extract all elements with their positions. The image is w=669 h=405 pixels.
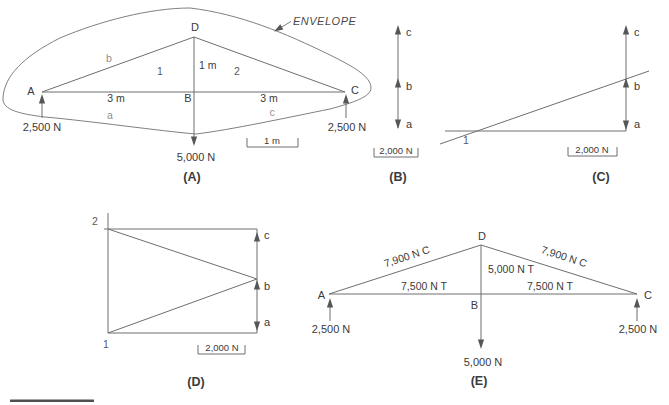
center-load-label: 5,000 N	[464, 356, 503, 368]
joint-label-C: C	[351, 84, 359, 96]
point-label-a: a	[264, 316, 271, 328]
panel-e-diagram: A D C B 7,900 N C 7,900 N C 5,000 N T 7,…	[312, 230, 658, 388]
point-label-c: c	[406, 26, 412, 38]
arrowhead-down-a	[395, 120, 401, 130]
panel-caption-a: (A)	[183, 170, 200, 184]
arrowhead-up-c	[254, 232, 260, 242]
point-label-b: b	[406, 80, 412, 92]
point-label-a: a	[406, 118, 413, 130]
panel-label-1: 1	[157, 65, 163, 77]
arrowhead-up-b	[254, 280, 260, 290]
envelope-label: ENVELOPE	[293, 15, 356, 27]
joint-label-B: B	[184, 92, 191, 104]
center-load-arrowhead	[478, 340, 484, 350]
panel-c-diagram: c b a 1 2,000 N (C)	[440, 25, 649, 184]
scale-label-c: 2,000 N	[575, 144, 608, 155]
dim-left-span: 3 m	[107, 92, 125, 104]
node-label-1: 1	[103, 338, 109, 350]
dim-right-span: 3 m	[260, 92, 278, 104]
node-label-1: 1	[463, 134, 469, 146]
arrowhead-up-c	[623, 25, 629, 35]
member-label-b: b	[106, 52, 112, 64]
center-load-label: 5,000 N	[177, 151, 216, 163]
member-force-left-chord: 7,500 N T	[401, 280, 448, 292]
scale-label-b: 2,000 N	[379, 145, 412, 156]
right-reaction-label: 2,500 N	[619, 323, 658, 335]
panel-b-diagram: c b a 2,000 N (B)	[374, 25, 418, 184]
joint-label-B: B	[471, 299, 478, 311]
joint-label-A: A	[27, 85, 35, 97]
scale-label-a: 1 m	[264, 135, 280, 146]
arrowhead-up-c	[395, 25, 401, 35]
figure-number-rule	[10, 400, 94, 403]
point-label-b: b	[264, 280, 270, 292]
member-label-c: c	[269, 106, 274, 118]
right-reaction-arrowhead	[634, 298, 640, 308]
point-label-a: a	[634, 118, 641, 130]
panel-caption-d: (D)	[187, 375, 204, 389]
dim-height: 1 m	[199, 59, 217, 71]
truss-analysis-figure: ENVELOPE A D B C b a c 1 2 3 m 3 m 1 m 2…	[0, 0, 669, 405]
left-reaction-arrowhead	[327, 298, 333, 308]
point-label-b: b	[634, 80, 640, 92]
panel-d-diagram: c b a 2 1 2,000 N (D)	[92, 213, 271, 389]
member-force-right-chord: 7,500 N T	[527, 280, 574, 292]
point-label-c: c	[264, 229, 270, 241]
left-reaction-label: 2,500 N	[312, 323, 351, 335]
arrowhead-down-a	[254, 322, 260, 332]
arrowhead-up-b	[395, 78, 401, 88]
figure-canvas: ENVELOPE A D B C b a c 1 2 3 m 3 m 1 m 2…	[0, 0, 669, 405]
joint-label-D: D	[478, 230, 486, 242]
truss-members	[329, 245, 637, 342]
envelope-leader-arrowhead	[274, 24, 283, 31]
scale-label-d: 2,000 N	[205, 342, 238, 353]
panel-caption-c: (C)	[592, 170, 609, 184]
member-force-left-rafter: 7,900 N C	[382, 243, 431, 269]
member-label-a: a	[107, 109, 113, 121]
joint-label-D: D	[191, 21, 199, 33]
arrowhead-down-a	[623, 121, 629, 131]
center-load-arrowhead	[191, 137, 197, 147]
joint-label-A: A	[318, 289, 326, 301]
panel-caption-e: (E)	[471, 374, 488, 388]
joint-label-C: C	[644, 289, 652, 301]
member-force-center-post: 5,000 N T	[488, 263, 535, 275]
panel-a-diagram: ENVELOPE A D B C b a c 1 2 3 m 3 m 1 m 2…	[3, 8, 371, 184]
panel-caption-b: (B)	[389, 170, 406, 184]
right-reaction-label: 2,500 N	[328, 121, 367, 133]
right-reaction-arrowhead	[343, 94, 349, 104]
ray-diagonal	[440, 71, 649, 144]
truss-members	[42, 37, 345, 92]
panel-label-2: 2	[234, 65, 240, 77]
maxwell-frame	[104, 213, 257, 333]
node-label-2: 2	[92, 215, 98, 227]
left-reaction-arrowhead	[39, 94, 45, 104]
left-reaction-label: 2,500 N	[23, 121, 62, 133]
point-label-c: c	[634, 26, 640, 38]
